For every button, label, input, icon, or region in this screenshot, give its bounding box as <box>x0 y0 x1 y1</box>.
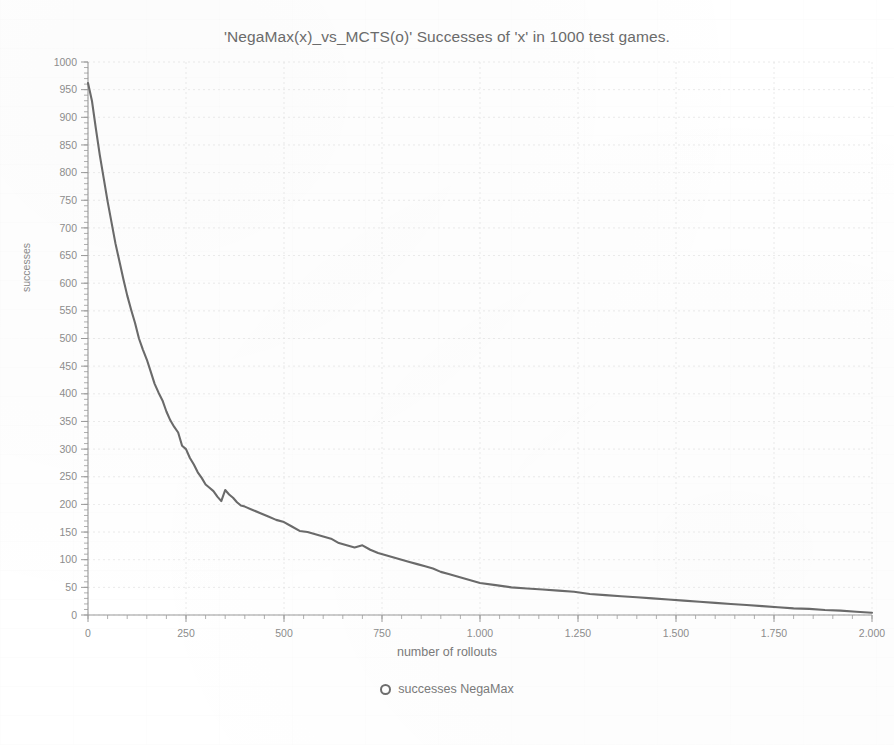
x-tick-label: 500 <box>275 627 293 639</box>
y-tick-label: 700 <box>59 222 77 234</box>
y-tick-label: 500 <box>59 332 77 344</box>
legend-label-successes-negamax: successes NegaMax <box>398 682 513 696</box>
y-tick-label: 650 <box>59 249 77 261</box>
major-tick-layer <box>81 62 872 622</box>
x-tick-label: 250 <box>177 627 195 639</box>
y-tick-label: 300 <box>59 443 77 455</box>
y-tick-label: 350 <box>59 415 77 427</box>
y-tick-label: 900 <box>59 111 77 123</box>
x-tick-label: 1.750 <box>761 627 787 639</box>
y-tick-label: 100 <box>59 553 77 565</box>
y-tick-label: 1000 <box>54 56 78 68</box>
y-tick-label: 950 <box>59 83 77 95</box>
y-tick-label: 550 <box>59 304 77 316</box>
tick-label-layer: 0501001502002503003504004505005506006507… <box>54 56 886 639</box>
plot-svg: 0501001502002503003504004505005506006507… <box>0 0 894 745</box>
y-tick-label: 250 <box>59 470 77 482</box>
y-tick-label: 450 <box>59 360 77 372</box>
minor-tick-layer <box>84 62 872 619</box>
y-tick-label: 600 <box>59 277 77 289</box>
x-tick-label: 0 <box>85 627 91 639</box>
y-tick-label: 750 <box>59 194 77 206</box>
y-tick-label: 800 <box>59 166 77 178</box>
x-tick-label: 750 <box>373 627 391 639</box>
y-tick-label: 50 <box>65 581 77 593</box>
y-tick-label: 150 <box>59 526 77 538</box>
y-tick-label: 200 <box>59 498 77 510</box>
chart-legend: successes NegaMax <box>0 682 894 696</box>
y-tick-label: 850 <box>59 139 77 151</box>
open-circle-icon <box>380 684 391 695</box>
x-tick-label: 1.500 <box>663 627 689 639</box>
x-axis-title: number of rollouts <box>0 645 894 659</box>
y-tick-label: 0 <box>71 609 77 621</box>
x-tick-label: 1.000 <box>467 627 493 639</box>
y-tick-label: 400 <box>59 387 77 399</box>
chart-container: 'NegaMax(x)_vs_MCTS(o)' Successes of 'x'… <box>0 0 894 745</box>
x-tick-label: 1.250 <box>565 627 591 639</box>
grid-layer <box>88 62 872 615</box>
x-tick-label: 2.000 <box>859 627 885 639</box>
